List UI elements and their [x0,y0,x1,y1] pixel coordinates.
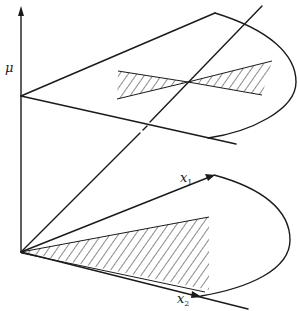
upper-hatched-bowtie [117,61,272,99]
mu-axis-arrow-icon [18,6,24,16]
mu-axis-label: μ [5,60,13,75]
cone-diagram: μ x1 x2 [0,0,298,311]
mu-axis [18,6,24,252]
x1-label: x1 [180,170,192,187]
lower-cone-curve [201,175,290,296]
x2-arrow-icon [191,291,202,298]
diagonal-axis [21,6,262,252]
lower-hatched-wedge [21,217,209,292]
